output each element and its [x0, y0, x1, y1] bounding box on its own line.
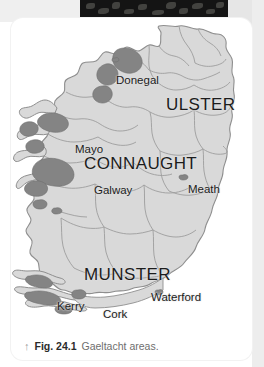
- figure-caption: ↑ Fig. 24.1 Gaeltacht areas.: [24, 341, 159, 352]
- gaeltacht-donegal-west: [97, 64, 118, 85]
- province-label-munster: MUNSTER: [84, 266, 171, 283]
- adjacent-photo-strip: [80, 0, 228, 17]
- county-label-galway: Galway: [94, 185, 132, 197]
- county-label-meath: Meath: [188, 184, 220, 196]
- province-label-connaught: CONNAUGHT: [84, 155, 197, 172]
- province-label-ulster: ULSTER: [166, 96, 235, 113]
- gaeltacht-donegal-speck: [112, 58, 119, 62]
- gaeltacht-mayo-south: [26, 140, 44, 154]
- gaeltacht-island-speck: [52, 208, 62, 214]
- county-label-mayo: Mayo: [75, 144, 103, 156]
- gaeltacht-galway-aran: [33, 200, 47, 209]
- gaeltacht-cork-muskerry: [72, 290, 86, 299]
- gaeltacht-donegal-southwest: [93, 86, 113, 103]
- page-background-right-strip: [252, 0, 264, 367]
- gaeltacht-meath-speck: [179, 175, 188, 180]
- figure-page: ULSTER CONNAUGHT MUNSTER Donegal Mayo Ga…: [0, 0, 264, 367]
- county-label-kerry: Kerry: [57, 301, 84, 313]
- figure-number: Fig. 24.1: [35, 341, 77, 352]
- gaeltacht-mayo-achill: [20, 122, 38, 137]
- county-label-cork: Cork: [103, 309, 127, 318]
- county-label-waterford: Waterford: [151, 292, 201, 304]
- figure-caption-text: Gaeltacht areas.: [82, 341, 159, 352]
- up-arrow-icon: ↑: [24, 341, 30, 352]
- gaeltacht-south-connemara: [24, 181, 47, 197]
- ireland-map: ULSTER CONNAUGHT MUNSTER Donegal Mayo Ga…: [11, 18, 252, 318]
- county-label-donegal: Donegal: [116, 75, 159, 87]
